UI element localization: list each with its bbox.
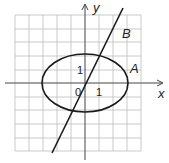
origin-label: 0 bbox=[75, 86, 81, 98]
curve-a-label: A bbox=[129, 61, 139, 76]
y-tick-label: 1 bbox=[77, 64, 83, 76]
y-axis-label: y bbox=[92, 0, 101, 15]
curve-b-line bbox=[52, 8, 123, 153]
graph: y x 0 1 1 A B bbox=[0, 0, 169, 163]
x-tick-label: 1 bbox=[96, 86, 102, 98]
x-axis-label: x bbox=[157, 86, 165, 101]
curve-b-label: B bbox=[122, 26, 131, 41]
